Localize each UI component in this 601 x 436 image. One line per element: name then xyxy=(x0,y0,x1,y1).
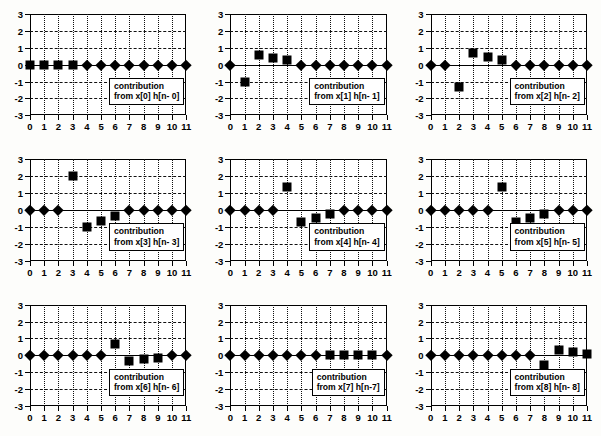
x-axis-tick xyxy=(459,406,460,411)
x-axis-tick xyxy=(58,115,59,120)
x-axis-tick-label: 6 xyxy=(513,267,518,278)
x-axis-tick xyxy=(30,261,31,266)
data-marker-square xyxy=(254,51,263,60)
data-marker-square xyxy=(68,172,77,181)
x-axis-tick xyxy=(273,261,274,266)
annotation-line-1: contribution xyxy=(314,226,379,236)
x-axis-tick xyxy=(259,261,260,266)
x-axis-tick-label: 4 xyxy=(84,267,89,278)
y-axis-tick xyxy=(225,305,230,306)
x-axis-tick-label: 8 xyxy=(141,267,146,278)
y-axis-tick xyxy=(225,338,230,339)
y-axis-tick-label: 0 xyxy=(418,59,423,70)
y-axis-tick-label: -2 xyxy=(15,93,23,104)
y-axis-tick-label: 1 xyxy=(418,188,423,199)
x-axis-tick-label: 0 xyxy=(27,267,32,278)
x-axis-tick-label: 0 xyxy=(428,412,433,423)
horizontal-gridline xyxy=(431,176,587,177)
y-axis-tick-label: 3 xyxy=(18,299,23,310)
x-axis-tick xyxy=(344,115,345,120)
x-axis-tick xyxy=(530,115,531,120)
x-axis-tick xyxy=(129,406,130,411)
x-axis-tick-label: 5 xyxy=(499,267,504,278)
y-axis-tick-label: 1 xyxy=(218,188,223,199)
annotation-line-1: contribution xyxy=(314,81,379,91)
x-axis-tick xyxy=(358,115,359,120)
x-axis-tick-label: 1 xyxy=(442,121,447,132)
x-axis-tick-label: 7 xyxy=(127,267,132,278)
x-axis-tick-label: 0 xyxy=(428,267,433,278)
x-axis-tick-label: 7 xyxy=(527,412,532,423)
x-axis-tick xyxy=(129,261,130,266)
annotation-line-1: contribution xyxy=(114,81,179,91)
x-axis-tick xyxy=(273,115,274,120)
plot-panel: 3210-1-2-301234567891011contributionfrom… xyxy=(0,145,200,290)
y-axis-tick xyxy=(25,176,30,177)
plot-area: 3210-1-2-301234567891011contributionfrom… xyxy=(30,159,186,260)
x-axis-tick-label: 2 xyxy=(56,412,61,423)
x-axis-tick-label: 8 xyxy=(141,412,146,423)
y-axis-tick xyxy=(225,82,230,83)
x-axis-tick xyxy=(44,261,45,266)
y-axis-tick-label: 0 xyxy=(418,350,423,361)
x-axis-tick xyxy=(488,261,489,266)
annotation-line-2: from x[7] h[n-7] xyxy=(317,382,380,392)
x-axis-tick xyxy=(544,115,545,120)
x-axis-tick xyxy=(245,406,246,411)
y-axis-tick-label: 1 xyxy=(218,42,223,53)
y-axis-tick xyxy=(225,98,230,99)
horizontal-gridline xyxy=(230,322,386,323)
x-axis-tick xyxy=(287,406,288,411)
annotation-box: contributionfrom x[7] h[n-7] xyxy=(312,369,385,396)
x-axis-tick-label: 11 xyxy=(582,412,592,423)
x-axis-tick xyxy=(245,115,246,120)
x-axis-tick xyxy=(431,115,432,120)
x-axis-tick-label: 5 xyxy=(98,267,103,278)
x-axis-tick-label: 11 xyxy=(382,121,392,132)
plot-area: 3210-1-2-301234567891011contributionfrom… xyxy=(230,14,386,115)
x-axis-tick-label: 9 xyxy=(556,412,561,423)
data-marker-square xyxy=(497,183,506,192)
y-axis-tick xyxy=(225,389,230,390)
x-axis-tick xyxy=(172,261,173,266)
y-axis-tick-label: -3 xyxy=(15,110,23,121)
x-axis-tick xyxy=(431,261,432,266)
y-axis-tick-label: 0 xyxy=(18,59,23,70)
annotation-line-1: contribution xyxy=(515,81,580,91)
x-axis-tick-label: 0 xyxy=(228,412,233,423)
y-axis-tick-label: -3 xyxy=(215,400,223,411)
y-axis-tick xyxy=(426,159,431,160)
annotation-line-2: from x[5] h[n- 5] xyxy=(515,237,580,247)
horizontal-gridline xyxy=(30,322,186,323)
annotation-line-2: from x[4] h[n- 4] xyxy=(314,237,379,247)
x-axis-tick-label: 10 xyxy=(567,412,578,423)
x-axis-tick xyxy=(445,115,446,120)
x-axis-tick xyxy=(301,115,302,120)
data-marker-square xyxy=(139,354,148,363)
x-axis-tick xyxy=(230,115,231,120)
x-axis-tick xyxy=(459,115,460,120)
x-axis-tick-label: 0 xyxy=(428,121,433,132)
x-axis-tick-label: 8 xyxy=(341,267,346,278)
y-axis-tick xyxy=(426,322,431,323)
y-axis-tick-label: -2 xyxy=(15,384,23,395)
plot-area: 3210-1-2-301234567891011contributionfrom… xyxy=(30,305,186,406)
x-axis-tick xyxy=(87,406,88,411)
x-axis-tick-label: 6 xyxy=(113,267,118,278)
annotation-line-1: contribution xyxy=(114,372,179,382)
x-axis-tick xyxy=(445,261,446,266)
x-axis-tick-label: 2 xyxy=(456,121,461,132)
y-axis-tick-label: -1 xyxy=(215,76,223,87)
y-axis-tick-label: 2 xyxy=(218,316,223,327)
y-axis-tick xyxy=(225,159,230,160)
y-axis-tick-label: -1 xyxy=(15,76,23,87)
x-axis-tick-label: 7 xyxy=(127,121,132,132)
y-axis-tick-label: 3 xyxy=(218,9,223,20)
annotation-line-1: contribution xyxy=(515,372,580,382)
data-marker-square xyxy=(297,217,306,226)
y-axis-tick xyxy=(426,176,431,177)
x-axis-tick xyxy=(158,115,159,120)
x-axis-tick xyxy=(129,115,130,120)
x-axis-tick-label: 5 xyxy=(499,121,504,132)
x-axis-tick-label: 4 xyxy=(285,267,290,278)
